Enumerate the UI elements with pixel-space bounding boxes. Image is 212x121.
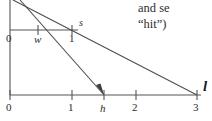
lower-axis-tick-label-h: h [100, 103, 106, 114]
body-text-fragment: and se “hit”) [138, 0, 212, 32]
lower-axis-tick-label-1: 1 [68, 102, 74, 113]
figure-page: 0 w 1 s 0 1 h 2 3 l and se “hit”) [0, 0, 212, 121]
steep-ray-with-arrow [20, 0, 104, 95]
body-text-line-1: and se [138, 0, 212, 16]
upper-axis-tick-label-1: 1 [69, 33, 75, 44]
arrowhead-icon [96, 84, 104, 96]
upper-axis-origin-label: 0 [6, 33, 12, 44]
body-text-line-2: “hit”) [138, 16, 212, 32]
upper-axis-tick-label-w: w [34, 34, 41, 45]
axis-name-label: l [203, 79, 207, 94]
lower-axis-tick-label-3: 3 [193, 102, 199, 113]
lower-axis-tick-label-0: 0 [6, 102, 12, 113]
lower-axis-tick-label-2: 2 [132, 102, 138, 113]
point-label-s: s [79, 18, 83, 28]
